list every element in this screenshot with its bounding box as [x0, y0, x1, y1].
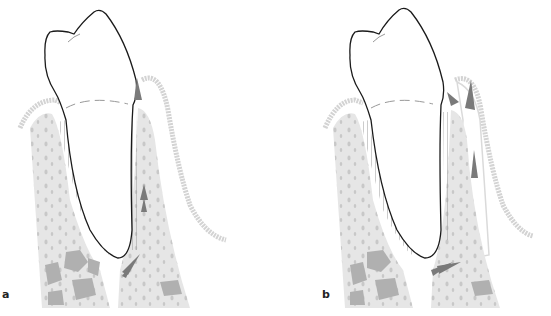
- panel-label-a: a: [2, 288, 9, 301]
- panel-b: b: [275, 0, 550, 316]
- panel-label-b: b: [322, 288, 330, 301]
- panel-a: a: [0, 0, 275, 316]
- tooth-diagram-b: [275, 0, 551, 316]
- tooth-diagram-a: [0, 0, 275, 316]
